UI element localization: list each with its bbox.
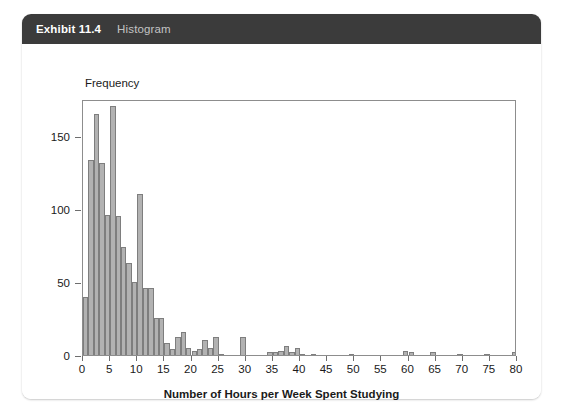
exhibit-header: Exhibit 11.4 Histogram: [22, 14, 541, 44]
x-axis-tick-label: 15: [157, 363, 170, 375]
exhibit-body: Frequency 050100150 05101520253035404550…: [22, 44, 541, 399]
x-axis-tick-label: 50: [347, 363, 360, 375]
histogram-bar: [430, 352, 435, 355]
y-axis-tick-mark: [75, 137, 81, 138]
x-axis-tick-label: 30: [238, 363, 251, 375]
histogram-bar: [484, 354, 489, 355]
histogram-bar: [213, 337, 218, 355]
x-axis-tick-label: 5: [106, 363, 112, 375]
y-axis-title: Frequency: [85, 77, 139, 89]
exhibit-number: Exhibit 11.4: [36, 23, 101, 35]
histogram-chart: Frequency 050100150 05101520253035404550…: [22, 44, 541, 399]
x-axis-tick-mark: [462, 356, 463, 361]
x-axis-tick-label: 20: [184, 363, 197, 375]
y-axis-tick-label: 150: [51, 131, 70, 143]
y-axis-tick-label: 50: [57, 277, 70, 289]
x-axis-tick-label: 80: [510, 363, 523, 375]
y-axis-tick-label: 0: [64, 350, 70, 362]
histogram-bar: [311, 354, 316, 355]
y-axis-tick-mark: [75, 283, 81, 284]
x-axis-tick-mark: [380, 356, 381, 361]
y-axis-tick-labels: 050100150: [36, 44, 70, 399]
exhibit-title: Histogram: [117, 23, 171, 35]
x-axis-tick-mark: [272, 356, 273, 361]
x-axis-tick-label: 60: [401, 363, 414, 375]
histogram-bar: [349, 354, 354, 355]
x-axis-tick-label: 40: [293, 363, 306, 375]
x-axis-tick-mark: [489, 356, 490, 361]
x-axis-tick-mark: [136, 356, 137, 361]
x-axis-tick-label: 70: [455, 363, 468, 375]
x-axis-tick-mark: [299, 356, 300, 361]
x-axis-tick-mark: [109, 356, 110, 361]
x-axis-tick-label: 35: [265, 363, 278, 375]
plot-area: [82, 100, 516, 356]
x-axis-tick-label: 55: [374, 363, 387, 375]
y-axis-tick-mark: [75, 210, 81, 211]
x-axis-title: Number of Hours per Week Spent Studying: [22, 388, 541, 400]
x-axis-tick-mark: [245, 356, 246, 361]
histogram-bar: [512, 352, 516, 355]
x-axis-tick-label: 65: [428, 363, 441, 375]
x-axis-tick-label: 25: [211, 363, 224, 375]
x-axis-tick-label: 75: [482, 363, 495, 375]
x-axis-tick-mark: [408, 356, 409, 361]
x-axis-tick-mark: [82, 356, 83, 361]
histogram-bar: [457, 354, 462, 355]
histogram-bar: [240, 337, 245, 355]
x-axis-tick-label: 45: [320, 363, 333, 375]
x-axis-tick-mark: [326, 356, 327, 361]
x-axis-tick-mark: [435, 356, 436, 361]
x-axis-tick-mark: [516, 356, 517, 361]
histogram-bar: [300, 354, 305, 355]
x-axis-tick-mark: [353, 356, 354, 361]
y-axis-tick-label: 100: [51, 204, 70, 216]
x-axis-tick-mark: [218, 356, 219, 361]
x-axis-tick-mark: [163, 356, 164, 361]
y-axis-tick-mark: [75, 356, 81, 357]
x-axis-tick-label: 0: [79, 363, 85, 375]
histogram-bar: [219, 354, 224, 355]
x-axis-tick-label: 10: [130, 363, 143, 375]
x-axis-tick-mark: [191, 356, 192, 361]
exhibit-card: Exhibit 11.4 Histogram Frequency 0501001…: [22, 14, 541, 399]
histogram-bar: [409, 352, 414, 355]
